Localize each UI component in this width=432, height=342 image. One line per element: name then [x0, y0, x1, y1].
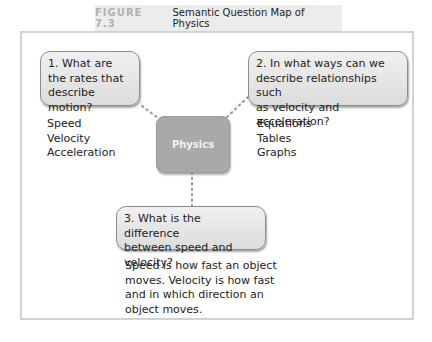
question-1-line: describe motion? — [48, 86, 132, 115]
question-1-line: 1. What are — [48, 57, 132, 72]
connector-q1 — [142, 106, 158, 118]
question-2-line: describe relationships such — [256, 72, 400, 101]
central-topic-node: Physics — [156, 116, 230, 173]
answer-line: moves. Velocity is how fast — [125, 274, 277, 289]
question-3-line: 3. What is the difference — [124, 212, 258, 241]
answers-2: Equations Tables Graphs — [257, 117, 311, 161]
question-2-line: 2. In what ways can we — [256, 57, 400, 72]
question-box-2: 2. In what ways can we describe relation… — [248, 51, 408, 106]
answer-item: Acceleration — [47, 146, 115, 161]
answer-item: Velocity — [47, 132, 115, 147]
question-box-3: 3. What is the difference between speed … — [116, 206, 266, 250]
question-box-1: 1. What are the rates that describe moti… — [40, 51, 140, 106]
answer-line: and in which direction an — [125, 288, 277, 303]
answer-line: object moves. — [125, 303, 277, 318]
answers-3: Speed is how fast an object moves. Veloc… — [125, 259, 277, 317]
central-topic-label: Physics — [172, 139, 214, 150]
connector-q2 — [226, 97, 248, 118]
answer-item: Graphs — [257, 146, 311, 161]
answer-item: Speed — [47, 117, 115, 132]
answers-1: Speed Velocity Acceleration — [47, 117, 115, 161]
answer-item: Equations — [257, 117, 311, 132]
question-1-line: the rates that — [48, 72, 132, 87]
answer-item: Tables — [257, 132, 311, 147]
answer-line: Speed is how fast an object — [125, 259, 277, 274]
